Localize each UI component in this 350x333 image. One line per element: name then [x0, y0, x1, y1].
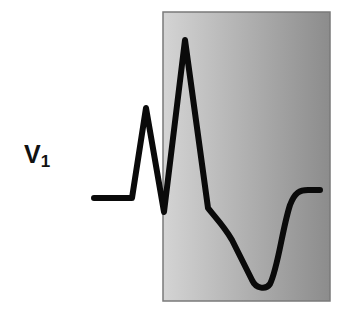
ecg-diagram: V1: [0, 0, 350, 333]
lead-letter: V: [24, 140, 41, 168]
lead-subscript: 1: [41, 152, 50, 171]
lead-label: V1: [24, 140, 50, 172]
ecg-svg: [0, 0, 350, 333]
